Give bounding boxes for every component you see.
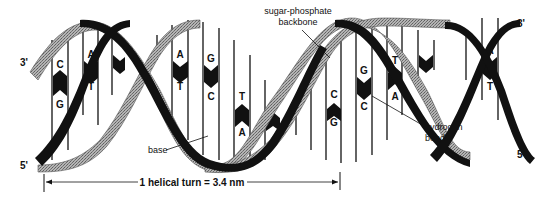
hydrogen-label-line1: hydrogen	[425, 122, 463, 132]
base-letter: T	[177, 81, 183, 92]
base-letter: A	[391, 91, 398, 102]
base-letter: G	[360, 65, 368, 76]
dna-diagram: C G A T A T G C T A C G G C T A A T 3' 5…	[0, 0, 543, 201]
base-letter: A	[486, 45, 493, 56]
strand-end-left-bottom: 5'	[20, 160, 28, 171]
base-letter: T	[392, 55, 398, 66]
backbone-label-line2: backbone	[278, 17, 317, 27]
hydrogen-label-line2: bonds	[425, 133, 450, 143]
strand-end-right-bottom: 5'	[517, 149, 525, 160]
base-letter: A	[238, 127, 245, 138]
base-letter: C	[360, 101, 367, 112]
base-letter: C	[56, 59, 63, 70]
scale-bar-label: 1 helical turn = 3.4 nm	[140, 177, 245, 188]
strand-end-right-top: 3'	[517, 18, 525, 29]
strand-end-left-top: 3'	[20, 57, 28, 68]
base-letter: C	[207, 91, 214, 102]
base-letter: C	[330, 89, 337, 100]
scale-bar: 1 helical turn = 3.4 nm	[44, 172, 340, 192]
base-letter: G	[56, 99, 64, 110]
dna-helix-figure: C G A T A T G C T A C G G C T A A T 3' 5…	[0, 0, 543, 201]
base-letter: T	[88, 81, 94, 92]
base-letter: A	[87, 49, 94, 60]
base-letter: T	[487, 81, 493, 92]
base-letter: T	[239, 91, 245, 102]
base-letter: G	[207, 53, 215, 64]
base-letter: G	[330, 117, 338, 128]
base-letter: A	[176, 49, 183, 60]
backbone-label-line1: sugar-phosphate	[264, 6, 332, 16]
base-label: base	[148, 145, 168, 155]
